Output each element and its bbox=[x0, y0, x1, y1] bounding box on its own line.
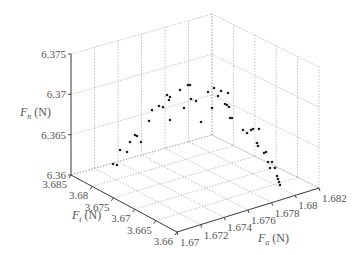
z-tick-label: 6.37 bbox=[47, 88, 67, 100]
x-tick-label: 1.676 bbox=[251, 214, 276, 226]
data-point bbox=[242, 129, 245, 132]
data-point bbox=[169, 119, 172, 122]
data-point bbox=[217, 95, 220, 98]
data-point bbox=[190, 98, 193, 101]
data-point bbox=[228, 106, 231, 109]
data-point bbox=[183, 107, 186, 110]
data-point bbox=[189, 84, 192, 87]
data-point bbox=[246, 132, 249, 135]
y-tick-label: 3.67 bbox=[111, 212, 131, 224]
data-point bbox=[258, 128, 261, 131]
data-point bbox=[276, 175, 279, 178]
data-point bbox=[151, 109, 154, 112]
data-point bbox=[119, 149, 122, 152]
y-tick-label: 3.66 bbox=[154, 235, 174, 247]
data-point bbox=[279, 184, 282, 187]
z-tick-label: 6.375 bbox=[41, 48, 66, 60]
data-point bbox=[148, 120, 151, 123]
data-point bbox=[136, 135, 139, 138]
x-tick-label: 1.672 bbox=[204, 229, 229, 241]
data-point bbox=[140, 141, 143, 144]
y-tick-label: 3.68 bbox=[69, 189, 89, 201]
data-point bbox=[169, 96, 172, 99]
x-tick-label: 1.674 bbox=[227, 221, 252, 233]
data-point bbox=[267, 161, 270, 164]
data-point bbox=[213, 87, 216, 90]
data-point bbox=[162, 106, 165, 109]
data-point bbox=[269, 167, 272, 170]
data-point bbox=[166, 94, 169, 97]
data-point bbox=[207, 91, 210, 94]
data-point bbox=[179, 89, 182, 92]
x-tick-label: 1.68 bbox=[298, 199, 318, 211]
data-point bbox=[195, 100, 198, 103]
data-point bbox=[112, 163, 115, 166]
data-point bbox=[158, 105, 161, 108]
data-point bbox=[256, 142, 259, 145]
z-axis-title: Fn (N) bbox=[19, 105, 51, 121]
y-tick-label: 3.665 bbox=[127, 224, 152, 236]
y-axis-title: Ft (N) bbox=[71, 208, 101, 224]
x-tick-label: 1.67 bbox=[180, 236, 200, 248]
data-point bbox=[271, 161, 274, 164]
data-point bbox=[252, 128, 255, 131]
x-axis-title: Fa (N) bbox=[257, 231, 289, 247]
data-point bbox=[229, 117, 232, 120]
data-point bbox=[277, 178, 280, 181]
z-tick-label: 6.365 bbox=[41, 129, 66, 141]
data-point bbox=[226, 104, 229, 107]
data-point bbox=[200, 121, 203, 124]
x-tick-label: 1.678 bbox=[275, 207, 300, 219]
data-point bbox=[220, 90, 223, 93]
data-point bbox=[278, 181, 281, 184]
data-point bbox=[126, 151, 129, 154]
data-point bbox=[274, 167, 277, 170]
data-point bbox=[265, 151, 268, 154]
data-point bbox=[168, 99, 171, 102]
data-point bbox=[257, 145, 260, 148]
y-tick-label: 3.685 bbox=[42, 178, 67, 190]
data-point bbox=[211, 107, 214, 110]
data-point bbox=[116, 164, 119, 167]
data-point bbox=[129, 141, 132, 144]
x-tick-label: 1.682 bbox=[322, 192, 347, 204]
3d-scatter-chart: 6.3756.376.3656.363.6853.683.6753.673.66… bbox=[0, 0, 356, 255]
data-point bbox=[227, 92, 230, 95]
